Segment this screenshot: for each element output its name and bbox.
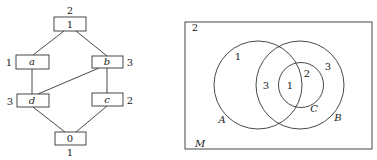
edge-b-d [38, 68, 99, 94]
region-a-only: 1 [235, 51, 241, 62]
lattice-diagram: 1 2 a 1 b 3 d 3 c 2 0 1 [6, 5, 133, 158]
node-b-label: b [104, 56, 110, 67]
edge-c-bottom [76, 106, 107, 132]
region-b-and-c-not-a: 2 [304, 68, 310, 79]
node-b: b 3 [92, 56, 133, 68]
set-a-label: A [217, 114, 225, 125]
node-top-label: 1 [67, 19, 73, 30]
node-bottom-label: 0 [67, 133, 73, 144]
node-d-weight: 3 [7, 96, 13, 107]
node-d-label: d [29, 95, 35, 106]
node-c-label: c [104, 94, 110, 105]
region-a-and-b-and-c: 1 [287, 80, 293, 91]
edge-top-b [76, 31, 107, 56]
universe-value: 2 [192, 22, 198, 33]
node-bottom-weight: 1 [67, 147, 73, 158]
node-a-label: a [29, 56, 35, 67]
node-a: a 1 [6, 55, 49, 69]
node-c: c 2 [92, 93, 133, 106]
edge-d-bottom [33, 107, 65, 132]
set-c-label: C [310, 103, 318, 114]
figure: 1 2 a 1 b 3 d 3 c 2 0 1 [0, 0, 377, 160]
node-bottom: 0 1 [55, 132, 86, 158]
node-c-weight: 2 [127, 95, 133, 106]
universe-label: M [194, 138, 206, 149]
node-d: d 3 [7, 94, 49, 107]
region-b-only: 3 [325, 61, 331, 72]
node-b-weight: 3 [127, 57, 133, 68]
edge-top-a [33, 31, 64, 55]
node-top: 1 2 [54, 5, 86, 31]
node-top-weight: 2 [67, 5, 73, 16]
venn-diagram: 2 M A B C 1 3 1 2 3 [185, 22, 372, 149]
set-b-circle [256, 41, 344, 129]
set-b-label: B [333, 112, 341, 123]
node-a-weight: 1 [6, 57, 12, 68]
region-a-and-b-not-c: 3 [263, 80, 269, 91]
set-c-circle [279, 63, 324, 108]
